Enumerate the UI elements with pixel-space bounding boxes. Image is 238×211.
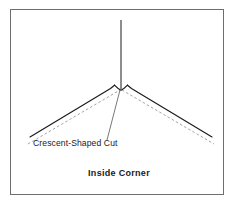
figure-page: Crescent-Shaped Cut Inside Corner: [0, 0, 238, 211]
crescent-shaped-cut-label: Crescent-Shaped Cut: [33, 138, 118, 148]
figure-caption: Inside Corner: [0, 168, 238, 178]
